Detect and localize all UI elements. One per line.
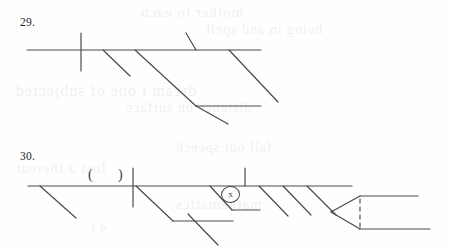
modifier-slant-5 bbox=[196, 106, 228, 124]
scanned-worksheet-page: mother to each being in and spell dream … bbox=[0, 0, 451, 247]
modifier-slant-2 bbox=[136, 186, 173, 221]
ghost-text-line: fall out speech bbox=[175, 140, 272, 156]
modifier-slant-7 bbox=[307, 186, 336, 215]
exercise-number-29: 29. bbox=[20, 16, 35, 28]
modifier-slant-4 bbox=[229, 50, 278, 102]
parenthesis-close-annotation: ) bbox=[118, 167, 123, 183]
bleed-through-ghost-text: mother to each being in and spell dream … bbox=[0, 0, 451, 247]
modifier-slant-5 bbox=[259, 186, 288, 216]
modifier-slant-3 bbox=[188, 214, 218, 245]
modifier-slant-1 bbox=[103, 50, 130, 76]
ghost-text-line: dream i one of subjected bbox=[15, 82, 196, 100]
compound-fork-upper bbox=[331, 196, 360, 212]
ghost-text-line: being in and spell bbox=[205, 22, 322, 38]
ghost-text-line: a j bbox=[90, 218, 107, 234]
modifier-slant-2 bbox=[135, 50, 196, 106]
ghost-text-line: mother to each bbox=[140, 4, 243, 21]
exercise-number-30: 30. bbox=[20, 150, 35, 162]
modifier-slant-1 bbox=[40, 186, 76, 218]
ghost-text-line: mathematics bbox=[175, 196, 262, 213]
modifier-slant-3 bbox=[186, 33, 196, 50]
sentence-diagram-strokes bbox=[0, 0, 451, 247]
compound-fork-lower bbox=[331, 212, 360, 229]
modifier-slant-6 bbox=[283, 186, 311, 215]
ghost-text-line: distance on surface bbox=[125, 100, 251, 116]
parenthesis-open-annotation: ( bbox=[88, 167, 93, 183]
circled-correction-mark: x bbox=[220, 185, 240, 203]
